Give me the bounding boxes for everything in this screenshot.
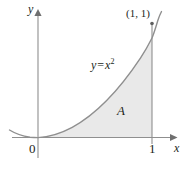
- y-axis-arrowhead: [34, 9, 41, 16]
- point-label-1-1: (1, 1): [126, 8, 150, 19]
- y-axis-label: y: [28, 3, 33, 15]
- shaded-region-a: [38, 23, 152, 138]
- x-tick-label-one: 1: [149, 142, 156, 155]
- curve-equation-operator: =: [96, 58, 105, 72]
- x-axis-label: x: [174, 142, 179, 154]
- origin-label: 0: [29, 142, 36, 155]
- figure-canvas: y x 0 1 (1, 1) A y=x2: [0, 0, 193, 170]
- point-marker-1-1: [150, 22, 154, 26]
- area-region-label: A: [117, 104, 125, 117]
- curve-equation-label: y=x2: [91, 59, 114, 71]
- curve-equation-exponent: 2: [110, 57, 114, 66]
